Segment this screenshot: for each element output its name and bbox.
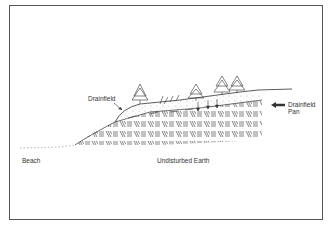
cross-section-illustration xyxy=(0,0,335,228)
beach-label: Beach xyxy=(22,157,40,164)
drainfield-pan-label: Drainfield Pan xyxy=(288,101,315,116)
tree-icon xyxy=(132,84,148,104)
beach-slope xyxy=(20,145,75,148)
tree-icon xyxy=(229,76,245,93)
drainfield-pan-label-line2: Pan xyxy=(288,108,315,115)
tree-icon xyxy=(214,76,230,95)
undisturbed-earth-label: Undisturbed Earth xyxy=(157,157,209,164)
drainfield-label: Drainfield xyxy=(88,95,115,102)
drainfield-pan-label-line1: Drainfield xyxy=(288,101,315,108)
